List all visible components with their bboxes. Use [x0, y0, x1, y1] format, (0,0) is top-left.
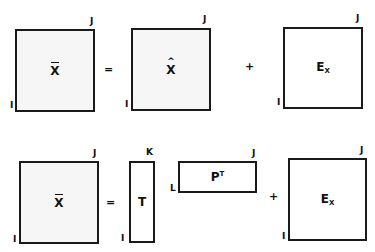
matrix-symbol-x-bar: X: [50, 65, 59, 77]
dim-label-i: I: [10, 101, 13, 110]
matrix-symbol-x-bar: X: [54, 197, 63, 209]
matrix-symbol-e-x: EX: [321, 193, 335, 207]
plus-sign: +: [269, 191, 278, 202]
matrix-symbol-t: T: [138, 196, 146, 208]
matrix-x-hat: X: [131, 28, 211, 111]
plus-sign: +: [245, 61, 254, 72]
equals-sign: =: [106, 197, 115, 208]
dim-label-j: J: [203, 15, 206, 24]
matrix-e-x-top: EX: [283, 27, 363, 109]
dim-label-j: J: [90, 17, 93, 26]
dim-label-i: I: [277, 98, 280, 107]
matrix-x-bar-top: X: [15, 29, 95, 112]
dim-label-i: I: [121, 234, 124, 243]
matrix-symbol-e-x: EX: [316, 61, 330, 75]
dim-label-k: K: [146, 148, 153, 157]
dim-label-j: J: [356, 14, 359, 23]
dim-label-j: J: [252, 149, 255, 158]
matrix-p-transpose-loadings: PT: [178, 161, 257, 193]
dim-label-i: I: [125, 100, 128, 109]
equals-sign: =: [104, 64, 113, 75]
dim-label-i: I: [13, 235, 16, 244]
matrix-x-bar-bottom: X: [19, 161, 99, 244]
dim-label-j: J: [93, 149, 96, 158]
dim-label-j: J: [360, 146, 363, 155]
dim-label-i: I: [282, 232, 285, 241]
matrix-e-x-bottom: EX: [288, 158, 367, 241]
matrix-symbol-p-transpose: PT: [211, 171, 225, 183]
dim-label-l: L: [170, 184, 176, 193]
matrix-symbol-x-hat: X: [166, 64, 175, 76]
matrix-t-scores: T: [129, 161, 155, 243]
